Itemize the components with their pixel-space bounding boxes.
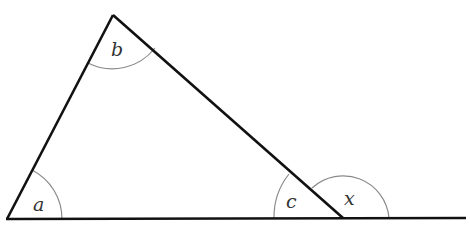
angle-label-c: c (286, 190, 297, 212)
angle-label-a: a (33, 193, 44, 215)
angle-label-b: b (111, 38, 123, 60)
side-left (7, 15, 113, 219)
angle-label-x: x (344, 187, 355, 209)
baseline-extended (6, 218, 466, 219)
side-right (113, 15, 343, 218)
triangle-diagram: a b c x (0, 0, 470, 241)
